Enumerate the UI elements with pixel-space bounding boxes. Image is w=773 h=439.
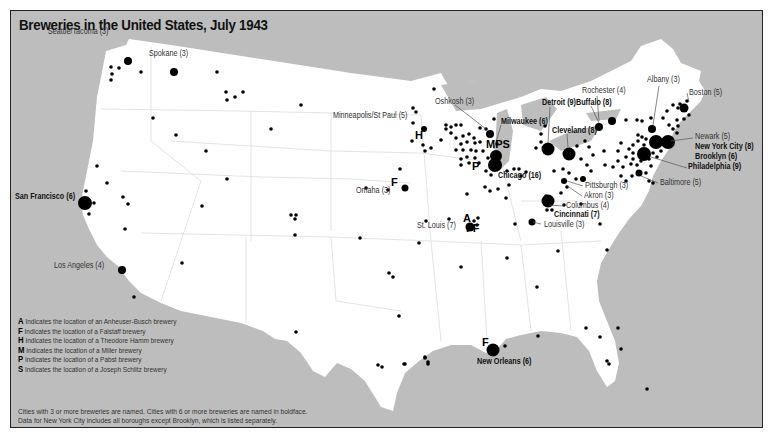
city-label: Akron (3) <box>584 192 614 200</box>
brewery-company-marker: H <box>415 130 423 141</box>
footnotes: Cities with 3 or more breweries are name… <box>18 407 307 426</box>
city-label: Chicago (16) <box>498 172 541 180</box>
city-label: St. Louis (7) <box>417 222 456 230</box>
city-label: Pittsburgh (3) <box>585 182 628 190</box>
legend: AIndicates the location of an Anheuser-B… <box>18 317 194 375</box>
city-label: San Francisco (6) <box>15 193 75 201</box>
city-label: Milwaukee (6) <box>501 118 548 126</box>
city-label: Buffalo (8) <box>576 99 612 107</box>
footnote-nyc: Data for New York City includes all boro… <box>18 416 307 425</box>
city-label: Cleveland (8) <box>552 127 597 135</box>
city-label: Baltimore (5) <box>660 179 701 187</box>
legend-item-hamm: HIndicates the location of a Theodore Ha… <box>18 336 176 346</box>
city-label: New Orleans (6) <box>477 358 531 366</box>
city-label: Rochester (4) <box>582 87 626 95</box>
brewery-company-marker: F <box>482 337 489 348</box>
footnote-naming: Cities with 3 or more breweries are name… <box>18 407 307 416</box>
city-label: Detroit (9) <box>542 99 576 107</box>
city-label: Brooklyn (6) <box>695 153 737 161</box>
legend-item-pabst: PIndicates the location of a Pabst brewe… <box>18 355 176 365</box>
city-label: Oshkosh (3) <box>435 98 474 106</box>
city-label: New York City (8) <box>695 143 754 151</box>
city-label: Philadelphia (9) <box>688 163 741 171</box>
city-label: Seattle/Tacoma (3) <box>48 28 108 36</box>
city-label: Louisville (3) <box>544 221 584 229</box>
brewery-company-marker: MPS <box>486 139 510 150</box>
brewery-company-marker: FF <box>466 223 479 234</box>
brewery-company-marker: P <box>472 161 479 172</box>
city-label: Columbus (4) <box>566 202 609 210</box>
city-label: Albany (3) <box>647 76 680 84</box>
brewery-company-marker: F <box>391 177 398 188</box>
legend-item-anheuser-busch: AIndicates the location of an Anheuser-B… <box>18 317 176 327</box>
legend-item-miller: MIndicates the location of a Miller brew… <box>18 346 176 356</box>
map-frame: Breweries in the United States, July 194… <box>10 10 763 428</box>
city-label: Boston (5) <box>689 89 722 97</box>
city-label: Cincinnati (7) <box>554 211 600 219</box>
city-label: Newark (5) <box>695 133 730 141</box>
city-label: Omaha (3) <box>356 187 390 195</box>
legend-item-schlitz: SIndicates the location of a Joseph Schl… <box>18 365 176 375</box>
city-label: Spokane (3) <box>149 50 188 58</box>
legend-item-falstaff: FIndicates the location of a Falstaff br… <box>18 327 176 337</box>
city-label: Los Angeles (4) <box>54 262 104 270</box>
city-label: Minneapolis/St Paul (5) <box>333 112 407 120</box>
